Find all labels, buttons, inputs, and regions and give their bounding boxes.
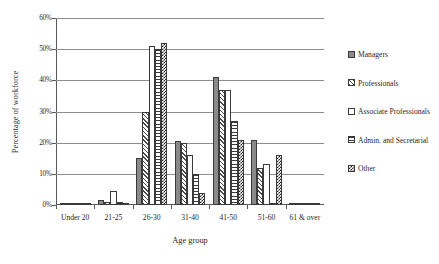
x-axis-title: Age group <box>172 236 208 245</box>
bar <box>84 203 90 205</box>
y-axis-tick-label: 0% <box>43 201 52 209</box>
x-axis-tick-mark <box>209 205 210 209</box>
y-axis-tick-label: 50% <box>39 45 52 53</box>
x-axis-tick-label: 61 & over <box>289 213 320 222</box>
legend-label: Admin. and Secretarial <box>358 136 428 146</box>
chart-figure: Percentage of workforce Age group 0%10%2… <box>0 0 439 264</box>
bar-group: 51-60 <box>247 18 285 205</box>
x-axis-tick-label: 26-30 <box>143 213 161 222</box>
legend-swatch <box>348 165 355 172</box>
x-axis-tick-mark <box>286 205 287 209</box>
bar-group: 26-30 <box>133 18 171 205</box>
x-axis-tick-mark <box>56 205 57 209</box>
bar-group: Under 20 <box>56 18 94 205</box>
x-axis-tick-label: 51-60 <box>258 213 276 222</box>
x-axis-tick-mark <box>94 205 95 209</box>
bar <box>161 43 167 205</box>
y-axis-tick-label: 40% <box>39 76 52 84</box>
bar <box>123 203 129 205</box>
legend-item: Other <box>348 164 439 174</box>
legend-item: Associate Professionals <box>348 107 439 117</box>
bar <box>238 140 244 205</box>
bar-group: 31-40 <box>171 18 209 205</box>
x-axis-tick-mark <box>133 205 134 209</box>
legend-item: Managers <box>348 50 439 60</box>
x-axis-tick-label: 41-50 <box>219 213 237 222</box>
bar-group: 41-50 <box>209 18 247 205</box>
legend: ManagersProfessionalsAssociate Professio… <box>348 50 439 193</box>
x-axis-tick-mark <box>171 205 172 209</box>
bar <box>276 155 282 205</box>
legend-label: Managers <box>358 50 388 60</box>
bar-group: 61 & over <box>286 18 324 205</box>
legend-label: Other <box>358 164 375 174</box>
y-axis-tick-label: 30% <box>39 108 52 116</box>
bar <box>263 164 269 205</box>
plot-area: 0%10%20%30%40%50%60% Under 2021-2526-303… <box>56 18 324 205</box>
x-axis-tick-mark <box>247 205 248 209</box>
legend-swatch <box>348 136 355 143</box>
legend-swatch <box>348 51 355 58</box>
y-axis-title: Percentage of workforce <box>11 71 20 153</box>
x-axis-tick-label: Under 20 <box>61 213 89 222</box>
bar <box>199 193 205 205</box>
bar-group: 21-25 <box>94 18 132 205</box>
y-axis-tick-label: 60% <box>39 14 52 22</box>
legend-swatch <box>348 108 355 115</box>
legend-item: Professionals <box>348 79 439 89</box>
bar-groups: Under 2021-2526-3031-4041-5051-6061 & ov… <box>56 18 324 205</box>
legend-label: Professionals <box>358 79 399 89</box>
x-axis-tick-label: 21-25 <box>105 213 123 222</box>
x-axis-tick-label: 31-40 <box>181 213 199 222</box>
legend-label: Associate Professionals <box>358 107 430 117</box>
y-axis-tick-label: 20% <box>39 139 52 147</box>
legend-swatch <box>348 79 355 86</box>
legend-item: Admin. and Secretarial <box>348 136 439 146</box>
y-axis-tick-label: 10% <box>39 170 52 178</box>
bar <box>314 203 320 205</box>
